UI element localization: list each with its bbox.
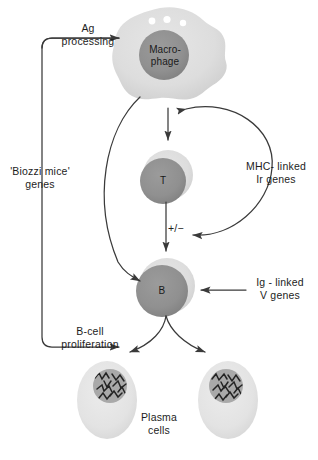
plasma-cells-label: Plasmacells <box>127 411 191 436</box>
immune-response-diagram: Agprocessing 'Biozzi mice'genes MHC- lin… <box>0 0 318 460</box>
macrophage-vacuole <box>149 18 156 25</box>
b-cell-label: B <box>147 285 177 297</box>
b-to-plasma-right-arrow <box>166 316 205 352</box>
ir-italic: Ir <box>256 173 263 185</box>
biozzi-genes-bracket <box>42 38 119 347</box>
b-cell-proliferation-label: B-cellproliferation <box>42 325 138 350</box>
biozzi-genes-label: 'Biozzi mice'genes <box>2 165 78 190</box>
plus-minus-label: +/− <box>168 222 194 235</box>
ig-v-genes-label: Ig - linkedV genes <box>243 276 317 301</box>
macrophage-to-b-arc <box>104 97 140 281</box>
v-italic: V <box>260 289 267 301</box>
t-cell-label: T <box>148 175 178 187</box>
macrophage-vacuole <box>180 20 186 26</box>
macrophage-vacuole <box>163 16 170 23</box>
plasma-cell-right <box>198 361 258 439</box>
mhc-ir-genes-label: MHC- linkedIr genes <box>236 160 316 185</box>
macrophage-label: Macro-phage <box>134 44 196 67</box>
ig-linked-line1: Ig - linked <box>256 276 304 288</box>
ag-processing-label: Agprocessing <box>52 22 124 47</box>
mhc-linked-line1: MHC- linked <box>246 160 306 172</box>
figure-caption: 4.5 Genetic control of the antibody resp… <box>0 449 318 460</box>
diagram-canvas <box>0 0 318 460</box>
